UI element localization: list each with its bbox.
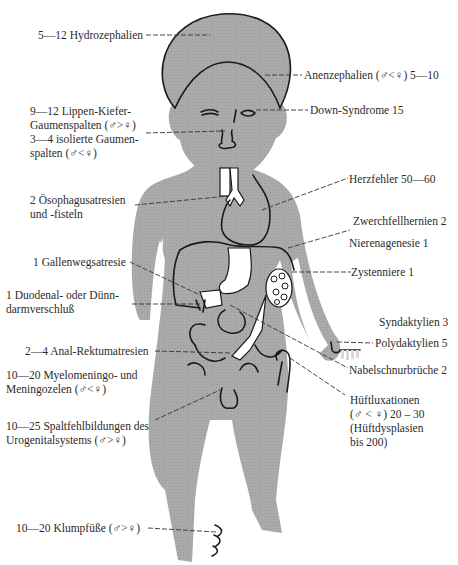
label-hip-dislocation: Hüftluxationen (♂ < ♀) 20 – 30 (Hüftdysp… xyxy=(350,393,425,449)
label-esophageal-atresia: 2 Ösophagusatresien und -fisteln xyxy=(30,193,126,221)
duodenal-line-1: 1 Duodenal- oder Dünn- xyxy=(6,288,119,302)
label-syndactyly: Syndaktylien 3 xyxy=(379,315,448,329)
label-cystic-kidney: Zystenniere 1 xyxy=(351,265,414,279)
esophageal-line-2: und -fisteln xyxy=(30,207,126,221)
esophageal-line-1: 2 Ösophagusatresien xyxy=(30,193,126,207)
label-duodenal-obstruction: 1 Duodenal- oder Dünn- darmverschluß xyxy=(6,288,119,316)
label-heart-defects: Herzfehler 50—60 xyxy=(349,172,436,186)
label-anorectal-atresia: 2—4 Anal-Rektumatresien xyxy=(25,344,149,358)
duodenal-line-2: darmverschluß xyxy=(6,302,119,316)
label-urogenital-clefts: 10—25 Spaltfehlbildungen des Urogenitals… xyxy=(6,419,149,447)
cleft-line-3: 3—4 isolierte Gaumen- xyxy=(30,132,139,146)
label-biliary-atresia: 1 Gallenwegsatresie xyxy=(33,255,126,269)
fingers xyxy=(341,350,359,360)
hip-line-4: bis 200) xyxy=(350,435,425,449)
clubfoot-toes xyxy=(212,525,222,556)
label-cleft-lip-palate: 9—12 Lippen-Kiefer- Gaumenspalten (♂>♀) … xyxy=(30,104,139,160)
label-anencephaly: Anenzephalien (♂<♀) 5—10 xyxy=(304,68,439,82)
cleft-line-1: 9—12 Lippen-Kiefer- xyxy=(30,104,139,118)
myelo-line-1: 10—20 Myelomeningo- und xyxy=(6,368,138,382)
hip-line-1: Hüftluxationen xyxy=(350,393,425,407)
face xyxy=(169,104,287,172)
body-illustration xyxy=(0,0,458,565)
label-renal-agenesis: Nierenagenesie 1 xyxy=(349,236,429,250)
label-polydactyly: Polydaktylien 5 xyxy=(375,336,448,350)
label-myelomeningocele: 10—20 Myelomeningo- und Meningozelen (♂<… xyxy=(6,368,138,396)
trachea xyxy=(220,168,230,196)
label-hydrocephalus: 5—12 Hydrozephalien xyxy=(38,28,143,42)
hip-line-2: (♂ < ♀) 20 – 30 xyxy=(350,407,425,421)
urogenital-line-2: Urogenitalsystems (♂>♀) xyxy=(6,433,149,447)
cleft-line-2: Gaumenspalten (♂>♀) xyxy=(30,118,139,132)
label-down-syndrome: Down-Syndrome 15 xyxy=(310,103,404,117)
label-diaphragmatic-hernia: Zwerchfellhernien 2 xyxy=(353,214,447,228)
label-clubfoot: 10—20 Klumpfüße (♂>♀) xyxy=(16,521,140,535)
malformation-diagram: 5—12 Hydrozephalien Anenzephalien (♂<♀) … xyxy=(0,0,458,565)
torso xyxy=(132,165,340,562)
cleft-line-4: spalten (♂<♀) xyxy=(30,146,139,160)
urogenital-line-1: 10—25 Spaltfehlbildungen des xyxy=(6,419,149,433)
label-omphalocele: Nabelschnurbrüche 2 xyxy=(349,363,447,377)
hip-line-3: (Hüftdysplasien xyxy=(350,421,425,435)
myelo-line-2: Meningozelen (♂<♀) xyxy=(6,382,138,396)
